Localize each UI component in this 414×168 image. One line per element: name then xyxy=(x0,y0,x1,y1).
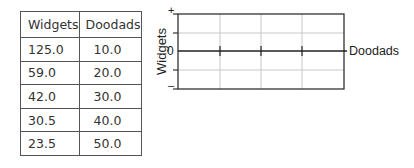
chart-grid xyxy=(0,0,414,168)
x-axis-label: Doodads xyxy=(349,44,399,58)
y-tick-minus: – xyxy=(168,79,174,91)
y-axis-label: Widgets xyxy=(154,22,169,82)
y-tick-plus: + xyxy=(168,4,174,16)
